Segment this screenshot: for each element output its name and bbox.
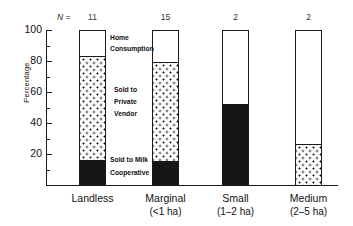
segment-home-consumption-marginal bbox=[153, 31, 178, 62]
bar-landless bbox=[79, 30, 106, 186]
y-ticklabel-20: 20 bbox=[2, 148, 42, 158]
y-tick-90 bbox=[46, 46, 50, 47]
y-ticklabel-60: 60 bbox=[2, 86, 42, 96]
bar-medium bbox=[295, 30, 322, 186]
x-category-marginal-sublabel: (<1 ha) bbox=[128, 205, 203, 218]
legend-milk-cooperative-line1: Sold to Milk bbox=[110, 155, 148, 165]
y-tick-20 bbox=[46, 154, 52, 155]
x-category-small: Small (1–2 ha) bbox=[198, 192, 273, 218]
x-category-landless: Landless bbox=[55, 192, 130, 205]
y-tick-100 bbox=[46, 30, 52, 31]
segment-divider bbox=[80, 56, 105, 57]
y-tick-10 bbox=[46, 170, 50, 171]
x-category-medium: Medium (2–5 ha) bbox=[271, 192, 346, 218]
x-category-small-sublabel: (1–2 ha) bbox=[198, 205, 273, 218]
legend-private-vendor-line1: Sold to bbox=[114, 85, 137, 95]
y-tick-30 bbox=[46, 139, 50, 140]
n-value-small: 2 bbox=[222, 12, 249, 22]
segment-milk-cooperative-marginal bbox=[153, 161, 178, 185]
segment-divider bbox=[153, 161, 178, 162]
x-category-marginal: Marginal (<1 ha) bbox=[128, 192, 203, 218]
segment-private-vendor-landless bbox=[80, 56, 105, 160]
segment-private-vendor-medium bbox=[296, 144, 321, 185]
y-axis-label: Percentage bbox=[22, 38, 31, 128]
y-tick-60 bbox=[46, 92, 52, 93]
x-category-marginal-label: Marginal bbox=[145, 192, 185, 204]
bar-marginal bbox=[152, 30, 179, 186]
legend-private-vendor-line3: Vendor bbox=[114, 109, 137, 119]
n-value-marginal: 15 bbox=[152, 12, 179, 22]
segment-home-consumption-landless bbox=[80, 31, 105, 56]
segment-milk-cooperative-small bbox=[223, 104, 248, 185]
x-category-small-label: Small bbox=[222, 192, 248, 204]
segment-private-vendor-marginal bbox=[153, 62, 178, 161]
y-tick-40 bbox=[46, 123, 52, 124]
n-value-landless: 11 bbox=[79, 12, 106, 22]
legend-home-consumption-line2: Consumption bbox=[110, 44, 154, 54]
segment-divider bbox=[223, 104, 248, 105]
y-ticklabel-100: 100 bbox=[2, 24, 42, 34]
segment-divider bbox=[296, 144, 321, 145]
legend-private-vendor-line2: Private bbox=[114, 97, 137, 107]
legend-milk-cooperative-line2: Cooperative bbox=[110, 168, 149, 178]
n-value-medium: 2 bbox=[295, 12, 322, 22]
y-ticklabel-40: 40 bbox=[2, 117, 42, 127]
chart-figure: Percentage 100 80 60 40 20 N = 11 15 2 2 bbox=[0, 0, 353, 226]
segment-home-consumption-medium bbox=[296, 31, 321, 144]
n-prefix-label: N = bbox=[57, 12, 70, 22]
y-ticklabel-80: 80 bbox=[2, 55, 42, 65]
segment-divider bbox=[80, 160, 105, 161]
segment-home-consumption-small bbox=[223, 31, 248, 104]
y-tick-70 bbox=[46, 77, 50, 78]
x-category-landless-label: Landless bbox=[71, 192, 113, 204]
bar-small bbox=[222, 30, 249, 186]
y-tick-50 bbox=[46, 108, 50, 109]
segment-milk-cooperative-landless bbox=[80, 160, 105, 185]
legend-home-consumption-line1: Home bbox=[110, 33, 129, 43]
segment-divider bbox=[153, 62, 178, 63]
y-tick-80 bbox=[46, 61, 52, 62]
x-category-medium-sublabel: (2–5 ha) bbox=[271, 205, 346, 218]
x-category-medium-label: Medium bbox=[290, 192, 327, 204]
